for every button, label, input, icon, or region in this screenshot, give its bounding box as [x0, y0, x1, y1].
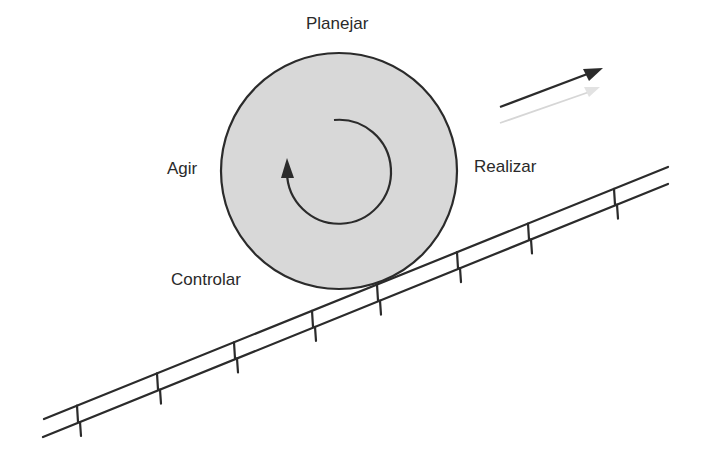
ramp-tick [312, 311, 313, 327]
label-agir: Agir [167, 160, 197, 177]
ramp-tick [377, 285, 378, 301]
ramp-tick [614, 189, 615, 205]
label-planejar: Planejar [306, 15, 368, 32]
ramp-tick [157, 373, 158, 389]
pdca-wheel [221, 53, 457, 289]
ramp-tick-foot [160, 390, 161, 404]
label-realizar: Realizar [474, 158, 536, 175]
ramp-tick-foot [531, 239, 532, 253]
pdca-diagram [0, 0, 704, 465]
ramp-tick-foot [315, 327, 316, 341]
ramp-tick [457, 252, 458, 268]
ramp-tick-foot [380, 301, 381, 315]
label-controlar: Controlar [171, 271, 241, 288]
ramp-tick-foot [460, 268, 461, 282]
ramp-tick [77, 406, 78, 422]
ramp-tick-foot [80, 422, 81, 436]
ramp-tick-foot [237, 358, 238, 372]
ramp-tick [234, 342, 235, 358]
up-right-arrow-icon [500, 68, 603, 123]
ramp-tick-foot [617, 205, 618, 219]
ramp-tick [528, 224, 529, 240]
